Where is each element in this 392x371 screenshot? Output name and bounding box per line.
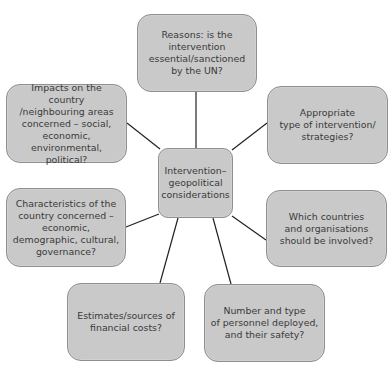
node-reasons-label: Reasons: is the intervention essential/s… <box>149 29 245 77</box>
node-appropriate-type: Appropriate type of intervention/ strate… <box>267 86 388 164</box>
node-characteristics: Characteristics of the country concerned… <box>6 188 126 267</box>
node-which-countries-label: Which countries and organisations should… <box>280 211 373 247</box>
connector-appropriate-type <box>232 123 267 150</box>
node-center: Intervention– geopolitical consideration… <box>158 148 233 218</box>
node-which-countries: Which countries and organisations should… <box>266 190 387 267</box>
node-personnel-label: Number and type of personnel deployed, a… <box>211 305 319 341</box>
node-financial-costs-label: Estimates/sources of financial costs? <box>77 310 175 334</box>
mind-map-diagram: Reasons: is the intervention essential/s… <box>0 0 392 371</box>
node-impacts-label: Impacts on the country /neighbouring are… <box>12 82 121 166</box>
node-personnel: Number and type of personnel deployed, a… <box>204 284 325 362</box>
connector-financial-costs <box>160 218 178 283</box>
node-center-label: Intervention– geopolitical consideration… <box>161 165 229 201</box>
node-impacts: Impacts on the country /neighbouring are… <box>6 84 127 163</box>
node-characteristics-label: Characteristics of the country concerned… <box>13 198 119 258</box>
node-appropriate-type-label: Appropriate type of intervention/ strate… <box>279 107 375 143</box>
node-reasons: Reasons: is the intervention essential/s… <box>137 14 257 92</box>
node-financial-costs: Estimates/sources of financial costs? <box>67 283 185 361</box>
connector-characteristics <box>126 214 159 227</box>
connector-which-countries <box>232 216 266 240</box>
connector-personnel <box>213 218 231 284</box>
connector-impacts <box>127 123 160 149</box>
